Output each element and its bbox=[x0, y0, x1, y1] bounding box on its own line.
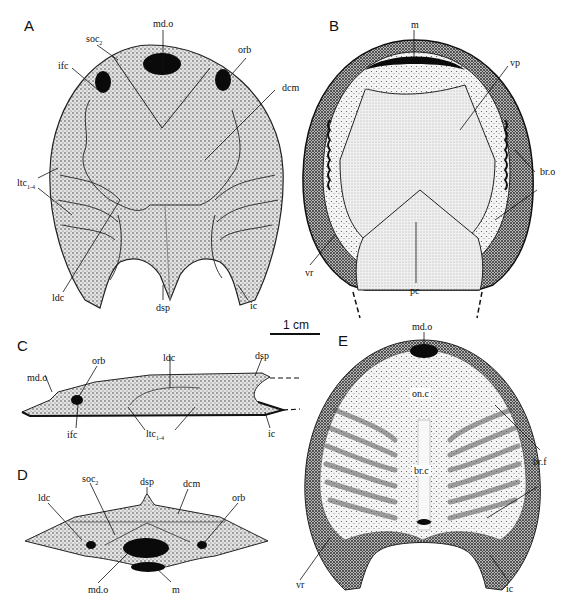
panel-e-illustration bbox=[300, 332, 540, 590]
label-a-mdo: md.o bbox=[153, 18, 173, 29]
scale-bar-label: 1 cm bbox=[283, 318, 309, 332]
label-b-pc: pc bbox=[410, 285, 419, 296]
label-a-orb: orb bbox=[238, 44, 251, 55]
label-e-brf: br.f bbox=[533, 456, 547, 467]
label-c-mdo: md.o bbox=[27, 372, 47, 383]
label-e-vr: vr bbox=[296, 579, 304, 590]
label-a-ic: ic bbox=[250, 300, 257, 311]
panel-c-illustration bbox=[22, 356, 300, 430]
label-c-dsp: dsp bbox=[255, 350, 269, 361]
label-a-ltc-sub: 1-4 bbox=[27, 184, 35, 190]
label-c-ic: ic bbox=[268, 428, 275, 439]
label-b-vp: vp bbox=[510, 57, 520, 68]
panel-letter-c: C bbox=[17, 337, 28, 354]
label-c-ltc-text: ltc bbox=[146, 428, 156, 439]
label-e-ic: ic bbox=[506, 583, 513, 594]
label-a-dcm: dcm bbox=[282, 82, 299, 93]
panel-letter-a: A bbox=[24, 17, 34, 34]
label-d-orb: orb bbox=[232, 492, 245, 503]
label-d-soc-text: soc bbox=[82, 473, 95, 484]
label-c-orb: orb bbox=[92, 355, 105, 366]
panel-letter-e: E bbox=[338, 332, 348, 349]
panel-letter-b: B bbox=[329, 17, 339, 34]
label-e-onc: on.c bbox=[410, 388, 431, 399]
label-c-ldc: ldc bbox=[163, 352, 175, 363]
label-d-dcm: dcm bbox=[183, 478, 200, 489]
label-a-dsp: dsp bbox=[156, 302, 170, 313]
label-b-bro: br.o bbox=[540, 166, 555, 177]
panel-b-illustration bbox=[303, 30, 537, 318]
label-b-m: m bbox=[411, 19, 419, 30]
label-d-soc2: soc2 bbox=[82, 473, 98, 489]
label-d-mdo: md.o bbox=[88, 584, 108, 595]
label-d-m: m bbox=[172, 584, 180, 595]
label-a-ldc: ldc bbox=[52, 292, 64, 303]
label-c-ltc: ltc1-4 bbox=[146, 428, 164, 444]
label-b-vr: vr bbox=[305, 267, 313, 278]
label-d-ldc: ldc bbox=[38, 492, 50, 503]
label-d-dsp: dsp bbox=[140, 476, 154, 487]
label-d-soc-sub: 2 bbox=[95, 480, 98, 486]
label-a-ltc: ltc1-4 bbox=[17, 177, 35, 193]
panel-a-illustration bbox=[38, 30, 283, 308]
label-c-ltc-sub: 1-4 bbox=[156, 435, 164, 441]
label-c-ifc: ifc bbox=[67, 429, 78, 440]
label-a-ifc: ifc bbox=[58, 60, 69, 71]
label-a-soc-text: soc bbox=[86, 33, 99, 44]
label-a-soc-sub: 2 bbox=[99, 40, 102, 46]
label-a-ltc-text: ltc bbox=[17, 177, 27, 188]
label-a-soc2: soc2 bbox=[86, 33, 102, 49]
panel-letter-d: D bbox=[17, 466, 28, 483]
label-e-mdo: md.o bbox=[412, 321, 432, 332]
label-e-brc: br.c bbox=[412, 465, 431, 476]
